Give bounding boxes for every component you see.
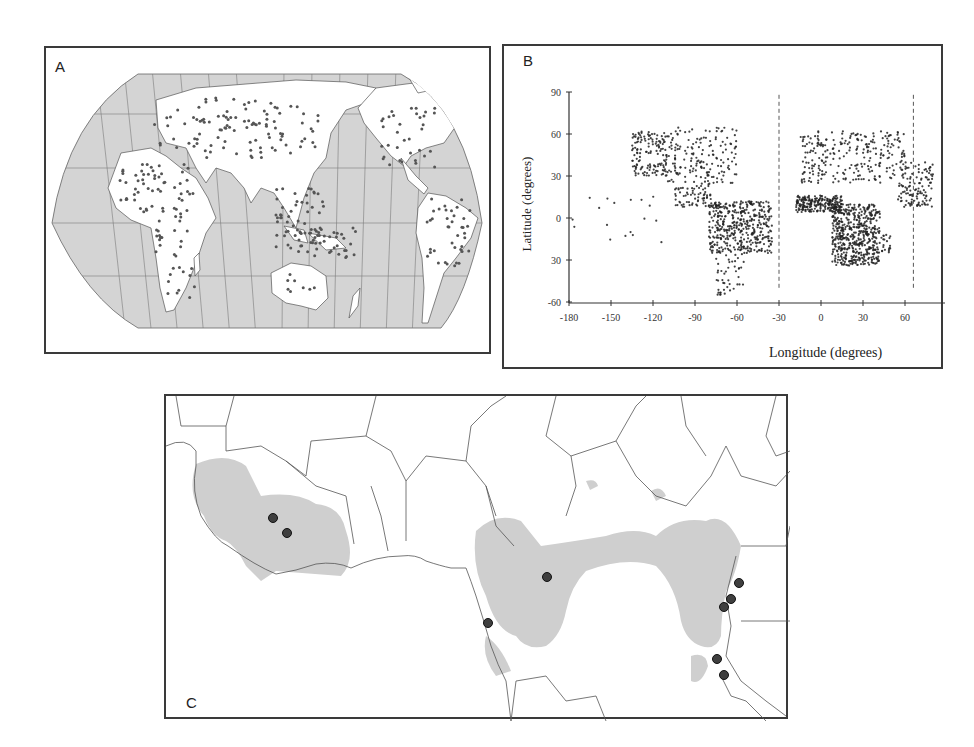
- svg-text:0: 0: [556, 213, 561, 224]
- y-axis-title: Latitude (degrees): [519, 139, 535, 269]
- world-map-svg: [46, 48, 493, 356]
- sample-site-dot: [735, 579, 744, 588]
- svg-text:-30: -30: [772, 312, 785, 323]
- svg-text:30: 30: [858, 312, 868, 323]
- svg-text:-90: -90: [688, 312, 701, 323]
- svg-text:30: 30: [551, 255, 561, 266]
- sample-site-dot: [484, 619, 493, 628]
- scatter-points: [571, 127, 934, 296]
- svg-text:-180: -180: [560, 312, 578, 323]
- svg-text:-60: -60: [730, 312, 743, 323]
- sample-site-dot: [543, 573, 552, 582]
- svg-text:-60: -60: [548, 297, 561, 308]
- svg-text:30: 30: [551, 171, 561, 182]
- sample-site-dot: [720, 603, 729, 612]
- x-axis-title: Longitude (degrees): [769, 345, 882, 361]
- sample-site-dot: [713, 655, 722, 664]
- svg-text:0: 0: [819, 312, 824, 323]
- svg-text:90: 90: [551, 87, 561, 98]
- panel-b-scatter-plot: B 906030030-60-180-150-120-90-60-3003060…: [502, 44, 943, 369]
- sample-site-dot: [283, 529, 292, 538]
- svg-text:60: 60: [900, 312, 910, 323]
- africa-map-svg: C: [166, 396, 790, 721]
- sample-site-dot: [269, 514, 278, 523]
- svg-text:-150: -150: [602, 312, 620, 323]
- panel-c-africa-range-map: C: [164, 394, 788, 719]
- svg-text:60: 60: [551, 129, 561, 140]
- panel-a-world-map: A: [44, 46, 491, 354]
- scatter-svg: 906030030-60-180-150-120-90-60-3003060: [504, 46, 945, 371]
- svg-text:-120: -120: [644, 312, 662, 323]
- panel-c-label: C: [186, 694, 197, 711]
- sample-site-dot: [720, 671, 729, 680]
- sample-site-dot: [727, 595, 736, 604]
